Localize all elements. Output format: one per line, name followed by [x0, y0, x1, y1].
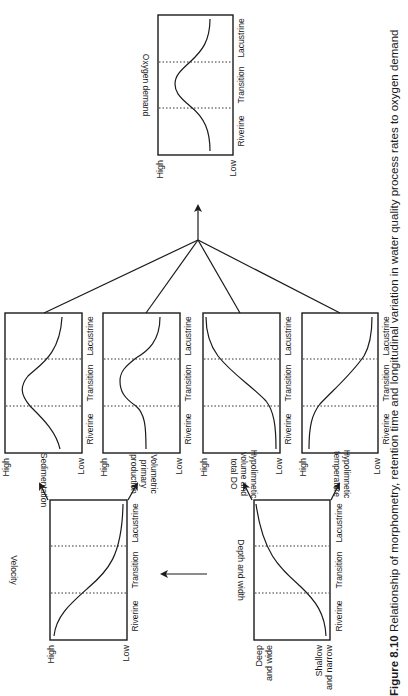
- axis-low-label: Low: [174, 458, 184, 475]
- panel-velocity: High Low Velocity Riverine Transition La…: [9, 500, 140, 664]
- axis-high-label: High: [99, 458, 109, 477]
- oxygen-demand-label: Oxygen demand: [141, 54, 151, 117]
- axis-low-label: Low: [372, 458, 382, 475]
- zone-riverine: Riverine: [183, 413, 193, 444]
- production-label-2: primary: [139, 460, 149, 489]
- panel-hypolimnetic-do: High Low Hypolimnetic volume and total D…: [199, 313, 293, 499]
- zone-transition: Transition: [283, 364, 293, 401]
- figure-stage: High Low Velocity Riverine Transition La…: [0, 0, 408, 696]
- hypo-temp-label-1: Hypolimnetic: [342, 450, 352, 499]
- axis-high-label: High: [298, 458, 308, 477]
- zone-riverine: Riverine: [334, 600, 344, 631]
- axis-high-label: High: [46, 645, 56, 664]
- panel-depth: Deep and wide Shallow and narrow Depth a…: [236, 500, 344, 690]
- axis-low-label: Low: [274, 458, 284, 475]
- panel-sedimentation: High Low Sedimentation Riverine Transiti…: [1, 313, 95, 507]
- axis-high-label-1: Deep: [254, 645, 264, 667]
- axis-low-label-2: and narrow: [324, 645, 334, 691]
- zone-transition: Transition: [183, 364, 193, 401]
- axis-low-label: Low: [76, 458, 86, 475]
- zone-lacustrine: Lacustrine: [334, 503, 344, 542]
- zone-transition: Transition: [130, 551, 140, 588]
- zone-riverine: Riverine: [85, 413, 95, 444]
- hypo-do-label-3: total DO: [229, 458, 239, 490]
- panel-primary-production: High Low Volumetric primary production R…: [99, 313, 193, 495]
- production-label-1: Volumetric: [149, 454, 159, 494]
- zone-transition: Transition: [334, 551, 344, 588]
- hypo-do-label-1: Hypolimnetic: [249, 450, 259, 499]
- hypo-temp-label-2: temperature: [332, 451, 342, 497]
- zone-transition: Transition: [85, 364, 95, 401]
- axis-high-label: High: [1, 458, 11, 477]
- hypo-do-label-2: volume and: [239, 452, 249, 496]
- panel-oxygen-demand: High Low Oxygen demand Riverine Transiti…: [141, 15, 246, 179]
- axis-low-label: Low: [121, 645, 131, 662]
- zone-lacustrine: Lacustrine: [85, 316, 95, 355]
- zone-lacustrine: Lacustrine: [283, 316, 293, 355]
- production-label-3: production: [129, 454, 139, 494]
- panel-hypolimnetic-temp: High Low Hypolimnetic temperature Riveri…: [298, 313, 391, 499]
- figure-caption: Figure 8.10 Relationship of morphometry,…: [388, 29, 400, 696]
- caption-text: Relationship of morphometry, retention t…: [388, 29, 400, 635]
- zone-lacustrine: Lacustrine: [130, 503, 140, 542]
- zone-riverine: Riverine: [236, 115, 246, 146]
- velocity-label: Velocity: [9, 555, 19, 585]
- axis-high-label-2: and wide: [264, 645, 274, 681]
- sedimentation-label: Sedimentation: [39, 453, 49, 508]
- zone-riverine: Riverine: [283, 413, 293, 444]
- zone-transition: Transition: [236, 66, 246, 103]
- caption-label: Figure 8.10: [388, 635, 400, 696]
- figure-svg: High Low Velocity Riverine Transition La…: [0, 0, 408, 696]
- axis-high-label: High: [199, 458, 209, 477]
- zone-lacustrine: Lacustrine: [236, 18, 246, 57]
- axis-low-label-1: Shallow: [314, 645, 324, 677]
- axis-high-label: High: [155, 160, 165, 179]
- zone-riverine: Riverine: [130, 600, 140, 631]
- axis-low-label: Low: [228, 160, 238, 177]
- depth-label: Depth and width: [236, 539, 246, 601]
- zone-lacustrine: Lacustrine: [183, 316, 193, 355]
- convergence-lines: [44, 206, 340, 313]
